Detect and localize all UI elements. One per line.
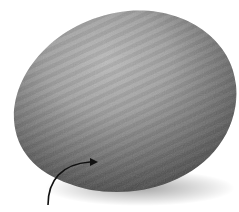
citrus-photo [0,0,239,212]
photo-scene [0,0,239,212]
